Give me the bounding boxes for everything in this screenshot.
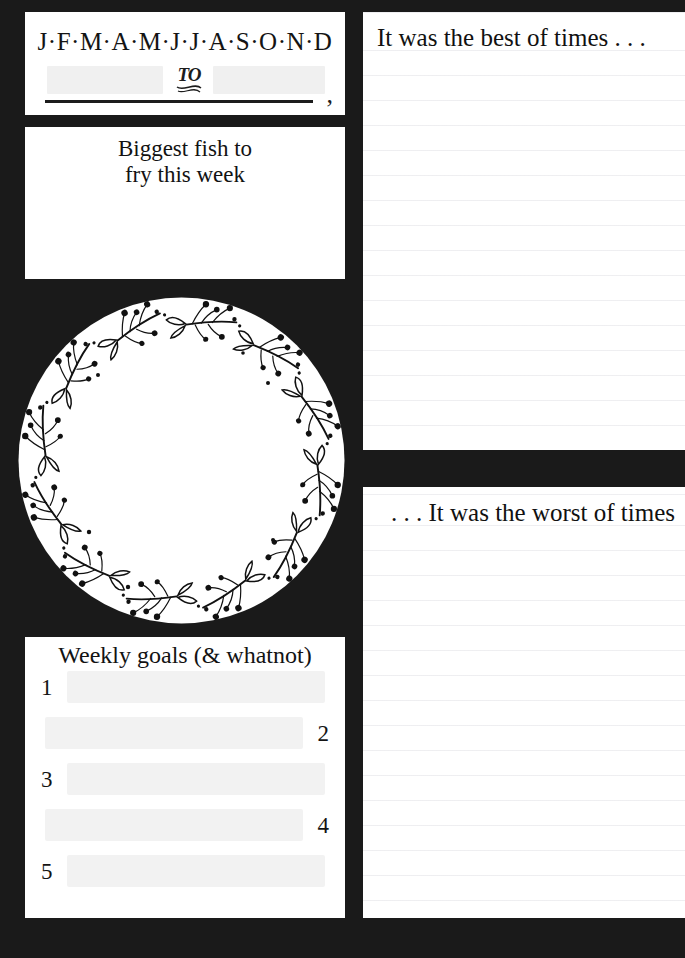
weekly-goals-card: Weekly goals (& whatnot) 1 2 3 4 5 (25, 637, 345, 918)
date-smudge-right (213, 66, 325, 94)
goal-number: 4 (318, 813, 330, 839)
goal-row[interactable]: 4 (25, 807, 345, 853)
biggest-fish-card: Biggest fish to fry this week (25, 127, 345, 279)
goal-row[interactable]: 1 (25, 669, 345, 715)
goal-row[interactable]: 3 (25, 761, 345, 807)
worst-of-times-heading: . . . It was the worst of times (371, 499, 675, 527)
biggest-fish-heading-line1: Biggest fish to (25, 136, 345, 162)
weekly-goals-heading: Weekly goals (& whatnot) (25, 642, 345, 669)
botanical-wreath-icon[interactable] (18, 297, 345, 624)
goal-entry-field[interactable] (67, 855, 325, 887)
goal-entry-field[interactable] (67, 671, 325, 703)
date-range-field[interactable]: TO , (43, 64, 335, 110)
goal-number: 3 (41, 767, 53, 793)
ruled-lines (363, 12, 685, 450)
goal-entry-field[interactable] (67, 763, 325, 795)
ruled-lines (363, 487, 685, 918)
goal-number: 2 (318, 721, 330, 747)
date-underline (45, 100, 313, 103)
goal-entry-field[interactable] (45, 809, 303, 841)
date-smudge-left (47, 66, 163, 94)
goal-row[interactable]: 2 (25, 715, 345, 761)
planner-page: J·F·M·A·M·J·J·A·S·O·N·D TO , Biggest fis… (0, 0, 685, 958)
goal-number: 1 (41, 675, 53, 701)
biggest-fish-heading: Biggest fish to fry this week (25, 136, 345, 188)
goal-number: 5 (41, 859, 53, 885)
to-swirl-icon (176, 84, 202, 94)
best-of-times-panel[interactable]: It was the best of times . . . (363, 12, 685, 450)
worst-of-times-panel[interactable]: . . . It was the worst of times (363, 487, 685, 918)
biggest-fish-heading-line2: fry this week (25, 162, 345, 188)
date-trailing-comma: , (327, 82, 334, 108)
goal-row[interactable]: 5 (25, 853, 345, 899)
goal-entry-field[interactable] (45, 717, 303, 749)
best-of-times-heading: It was the best of times . . . (377, 24, 677, 52)
month-initials-row[interactable]: J·F·M·A·M·J·J·A·S·O·N·D (25, 28, 345, 56)
to-monogram: TO (178, 64, 201, 86)
date-card: J·F·M·A·M·J·J·A·S·O·N·D TO , (25, 12, 345, 115)
